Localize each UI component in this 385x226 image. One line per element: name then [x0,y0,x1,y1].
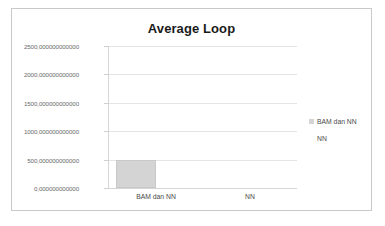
legend-item[interactable]: NN [309,134,371,143]
chart-container: Average Loop 0,000000000000500,000000000… [11,8,372,211]
bar[interactable] [116,160,156,188]
y-axis-tick-label: 2000,000000000000 [24,71,79,78]
legend-item-label: BAM dan NN [317,118,357,125]
gridline [109,103,297,104]
y-axis-tick-label: 1000,000000000000 [24,128,79,135]
chart-legend: BAM dan NNNN [309,117,371,151]
gridline [109,46,297,47]
x-axis-category-label: BAM dan NN [136,193,176,200]
y-axis-tick-label: 2500,000000000000 [24,43,79,50]
y-axis-tick-label: 1500,000000000000 [24,99,79,106]
legend-swatch-icon [309,136,314,141]
gridline [109,74,297,75]
x-axis-category-label: NN [245,193,255,200]
gridline [109,131,297,132]
legend-item-label: NN [317,135,327,142]
y-axis-tick-label: 0,000000000000 [34,185,79,192]
chart-title: Average Loop [12,21,371,36]
plot-area [109,46,297,188]
gridline [109,188,297,189]
legend-swatch-icon [309,119,314,124]
legend-item[interactable]: BAM dan NN [309,117,371,126]
y-axis-tick-label: 500,000000000000 [27,156,79,163]
